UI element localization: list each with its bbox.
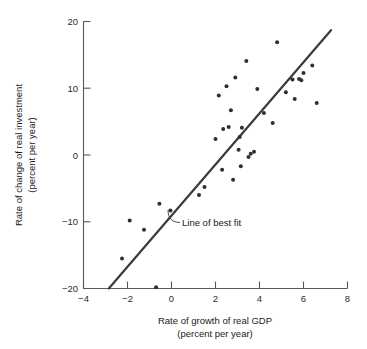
chart-canvas: 20 10 0 −10 −20 −4 −2 0 2 4 6 8 — [0, 0, 367, 349]
data-point — [310, 64, 314, 68]
data-point — [231, 178, 235, 182]
data-point — [157, 202, 161, 206]
data-point — [227, 125, 231, 129]
data-point — [299, 78, 303, 82]
data-point — [302, 71, 306, 75]
data-point — [238, 135, 242, 139]
data-point — [255, 87, 259, 91]
x-axis-title: Rate of growth of real GDP (percent per … — [158, 315, 272, 339]
data-point — [240, 126, 244, 130]
y-tick-label: 10 — [67, 83, 78, 94]
data-point — [237, 148, 241, 152]
y-axis-title-line2: (percent per year) — [26, 117, 37, 193]
data-point — [217, 94, 221, 98]
data-point — [247, 155, 251, 159]
x-tick-label: −4 — [78, 293, 89, 304]
y-axis-ticks: 20 10 0 −10 −20 — [62, 16, 91, 294]
data-point — [275, 40, 279, 44]
data-point — [128, 218, 132, 222]
x-tick-label: 2 — [213, 293, 218, 304]
data-point — [203, 185, 207, 189]
y-axis-title-line1: Rate of change of real investment — [13, 84, 24, 226]
data-point — [244, 59, 248, 63]
data-point — [252, 150, 256, 154]
data-point — [197, 193, 201, 197]
data-point — [229, 108, 233, 112]
data-point — [262, 111, 266, 115]
data-point — [239, 164, 243, 168]
x-tick-label: 4 — [257, 293, 262, 304]
x-tick-label: 6 — [301, 293, 306, 304]
data-point — [214, 137, 218, 141]
data-point — [221, 127, 225, 131]
data-point — [168, 208, 172, 212]
data-point — [225, 84, 229, 88]
x-axis-ticks: −4 −2 0 2 4 6 8 — [78, 282, 350, 305]
data-point — [154, 285, 158, 289]
x-tick-label: −2 — [122, 293, 133, 304]
y-tick-label: 20 — [67, 16, 78, 27]
x-tick-label: 0 — [169, 293, 174, 304]
data-point — [293, 97, 297, 101]
y-tick-label: −20 — [62, 283, 78, 294]
data-point — [233, 76, 237, 80]
data-point — [142, 228, 146, 232]
y-axis-title: Rate of change of real investment (perce… — [13, 84, 37, 226]
data-point — [120, 256, 124, 260]
data-point — [220, 168, 224, 172]
x-tick-label: 8 — [345, 293, 350, 304]
data-point — [271, 121, 275, 125]
data-point — [315, 101, 319, 105]
y-tick-label: −10 — [62, 216, 78, 227]
axis-group — [84, 22, 348, 289]
data-point — [284, 90, 288, 94]
line-of-best-fit — [109, 30, 331, 288]
y-tick-label: 0 — [73, 150, 78, 161]
data-point — [291, 78, 295, 82]
x-axis-title-line2: (percent per year) — [177, 328, 253, 339]
x-axis-title-line1: Rate of growth of real GDP — [158, 315, 272, 326]
scatter-plot-figure: 20 10 0 −10 −20 −4 −2 0 2 4 6 8 — [0, 0, 367, 349]
line-of-best-fit-annotation: Line of best fit — [168, 210, 242, 228]
annotation-label: Line of best fit — [182, 217, 242, 228]
